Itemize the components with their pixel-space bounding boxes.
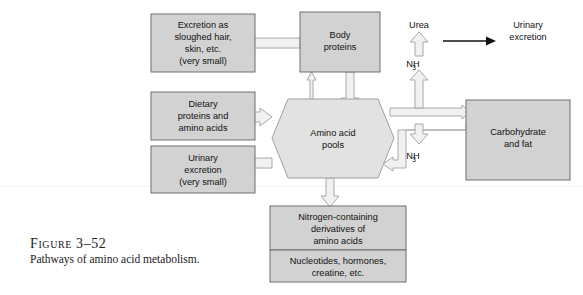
box-carbohydrate-and-fat-line2: and fat: [504, 139, 533, 149]
box-urinary-excretion-small-line3: (very small): [179, 177, 226, 187]
figure-number: Figure 3–52: [30, 236, 290, 251]
label-nh3-upper-sub: 3: [412, 64, 416, 71]
box-urinary-excretion-small[interactable]: Urinary excretion (very small): [151, 146, 255, 193]
box-urinary-excretion-small-line1: Urinary: [188, 153, 218, 163]
box-nitrogen-derivatives-line1: Nitrogen-containing: [298, 212, 378, 222]
label-nh3-lower-sub: 3: [412, 156, 416, 163]
box-excretion-sloughed-line1: Excretion as: [178, 20, 229, 30]
label-urea: Urea: [409, 20, 430, 30]
label-urinary-excretion-line2: excretion: [509, 32, 546, 42]
box-nitrogen-derivatives-line2: derivatives of: [311, 224, 366, 234]
box-dietary-proteins-line1: Dietary: [188, 99, 218, 109]
box-excretion-sloughed-line4: (very small): [179, 56, 226, 66]
box-nitrogen-derivatives[interactable]: Nitrogen-containing derivatives of amino…: [270, 206, 406, 250]
box-dietary-proteins-line2: proteins and: [178, 111, 229, 121]
box-body-proteins[interactable]: Body proteins: [300, 12, 380, 72]
box-amino-acid-pools[interactable]: Amino acid pools: [272, 99, 394, 178]
box-carbohydrate-and-fat-line1: Carbohydrate: [490, 127, 546, 137]
box-nitrogen-derivatives-line3: amino acids: [313, 236, 362, 246]
box-amino-acid-pools-line2: pools: [322, 140, 344, 150]
label-nh3-upper: NH 3: [406, 59, 419, 71]
figure-caption-text: Pathways of amino acid metabolism.: [30, 253, 290, 267]
box-carbohydrate-and-fat[interactable]: Carbohydrate and fat: [466, 100, 570, 180]
box-body-proteins-line2: proteins: [324, 42, 357, 52]
box-excretion-sloughed-line2: sloughed hair,: [174, 32, 231, 42]
arrow-to-nh3-lower: [410, 124, 428, 144]
box-nucleotides-hormones-line1: Nucleotides, hormones,: [290, 256, 387, 266]
box-dietary-proteins[interactable]: Dietary proteins and amino acids: [151, 92, 255, 140]
box-amino-acid-pools-line1: Amino acid: [310, 128, 355, 138]
label-nh3-lower: NH 3: [406, 151, 419, 163]
label-urinary-excretion: Urinary excretion: [509, 20, 546, 42]
box-nucleotides-hormones-line2: creatine, etc.: [312, 268, 365, 278]
arrow-pool-to-carbohydrate: [390, 105, 470, 119]
box-excretion-sloughed[interactable]: Excretion as sloughed hair, skin, etc. (…: [151, 14, 255, 72]
box-dietary-proteins-line3: amino acids: [178, 123, 227, 133]
label-urinary-excretion-line1: Urinary: [513, 20, 543, 30]
arrow-carbohydrate-to-pool: [383, 122, 474, 171]
box-urinary-excretion-small-line2: excretion: [184, 165, 221, 175]
arrow-nh3-to-urea: [410, 32, 428, 56]
box-body-proteins-line1: Body: [330, 30, 351, 40]
box-excretion-sloughed-line3: skin, etc.: [185, 44, 221, 54]
arrow-pool-to-nitrogen: [321, 178, 339, 207]
box-nucleotides-hormones[interactable]: Nucleotides, hormones, creatine, etc.: [270, 250, 406, 282]
arrow-urea-to-urinary-excretion: [443, 37, 496, 46]
arrow-pool-to-nh3-upper: [410, 70, 428, 108]
figure-caption-block: Figure 3–52 Pathways of amino acid metab…: [30, 236, 290, 267]
figure-page: Excretion as sloughed hair, skin, etc. (…: [0, 0, 583, 295]
